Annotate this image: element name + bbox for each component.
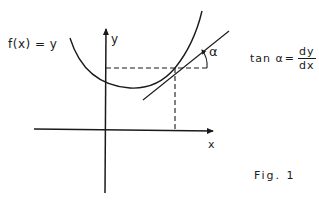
formula-equals: = xyxy=(285,53,295,64)
y-axis xyxy=(105,29,106,193)
function-label: f(x) = y xyxy=(8,38,57,50)
x-axis-label: x xyxy=(208,139,215,150)
x-axis xyxy=(34,129,213,131)
tangent-formula: tan α = dy dx xyxy=(250,46,316,71)
formula-numerator: dy xyxy=(298,46,316,59)
formula-denominator: dx xyxy=(299,59,315,71)
formula-fraction: dy dx xyxy=(298,46,316,71)
angle-label: α xyxy=(209,45,218,58)
function-curve xyxy=(70,11,202,88)
y-axis-label: y xyxy=(111,33,118,45)
formula-lhs: tan α xyxy=(250,53,284,64)
tangent-line xyxy=(143,31,229,100)
figure-caption: Fig. 1 xyxy=(254,170,296,181)
